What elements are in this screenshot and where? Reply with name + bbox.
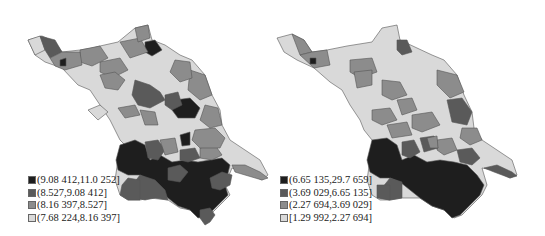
legend-item: (6.65 135,29.7 659]	[280, 174, 372, 187]
legend-item: (3.69 029,6.65 135]	[280, 187, 372, 200]
legend-label: [1.29 992,2.27 694]	[289, 212, 372, 225]
legend-swatch-light	[28, 214, 36, 222]
legend-item: (8.527,9.08 412]	[28, 187, 120, 200]
legend-swatch-dark	[28, 189, 36, 197]
legend-swatch-medium	[28, 201, 36, 209]
legend-right: (6.65 135,29.7 659] (3.69 029,6.65 135] …	[280, 174, 372, 224]
legend-label: (3.69 029,6.65 135]	[289, 187, 372, 200]
legend-swatch-medium	[280, 201, 288, 209]
legend-item: (7.68 224,8.16 397]	[28, 212, 120, 225]
legend-label: (9.08 412,11.0 252]	[37, 174, 120, 187]
legend-label: (2.27 694,3.69 029]	[289, 199, 372, 212]
legend-swatch-light	[280, 214, 288, 222]
legend-item: (2.27 694,3.69 029]	[280, 199, 372, 212]
choropleth-map-right: (6.65 135,29.7 659] (3.69 029,6.65 135] …	[272, 0, 544, 236]
legend-label: (8.16 397,8.527]	[37, 199, 107, 212]
legend-swatch-dark	[280, 189, 288, 197]
legend-swatch-darkest	[28, 176, 36, 184]
legend-item: (9.08 412,11.0 252]	[28, 174, 120, 187]
choropleth-map-left: (9.08 412,11.0 252] (8.527,9.08 412] (8.…	[0, 0, 272, 236]
legend-label: (8.527,9.08 412]	[37, 187, 107, 200]
legend-item: (8.16 397,8.527]	[28, 199, 120, 212]
legend-left: (9.08 412,11.0 252] (8.527,9.08 412] (8.…	[28, 174, 120, 224]
legend-label: (6.65 135,29.7 659]	[289, 174, 372, 187]
legend-item: [1.29 992,2.27 694]	[280, 212, 372, 225]
legend-swatch-darkest	[280, 176, 288, 184]
legend-label: (7.68 224,8.16 397]	[37, 212, 120, 225]
